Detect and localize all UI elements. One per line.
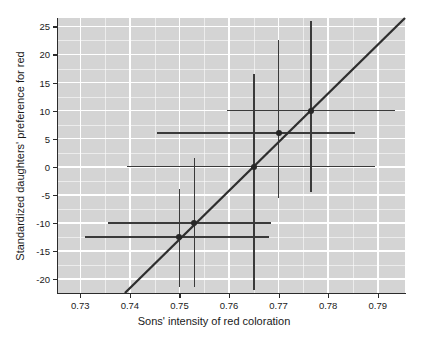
data-point bbox=[276, 130, 282, 136]
y-tick-label: -20 bbox=[22, 273, 50, 284]
x-tick-label: 0.76 bbox=[220, 300, 239, 311]
y-tick-label: 5 bbox=[22, 133, 50, 144]
y-tick-label: -5 bbox=[22, 189, 50, 200]
y-tick-mark bbox=[53, 279, 57, 280]
x-axis-title: Sons' intensity of red coloration bbox=[0, 315, 428, 327]
data-point bbox=[191, 220, 197, 226]
y-tick-mark bbox=[53, 83, 57, 84]
x-tick-mark bbox=[179, 294, 180, 298]
x-tick-label: 0.79 bbox=[368, 300, 387, 311]
y-tick-label: 20 bbox=[22, 49, 50, 60]
x-tick-mark bbox=[229, 294, 230, 298]
x-tick-label: 0.75 bbox=[170, 300, 189, 311]
x-tick-label: 0.73 bbox=[71, 300, 90, 311]
x-tick-mark bbox=[80, 294, 81, 298]
y-tick-mark bbox=[53, 223, 57, 224]
x-tick-mark bbox=[279, 294, 280, 298]
y-tick-label: -15 bbox=[22, 245, 50, 256]
y-tick-label: 0 bbox=[22, 161, 50, 172]
fit-line-segment bbox=[125, 18, 405, 293]
y-tick-mark bbox=[53, 251, 57, 252]
x-tick-label: 0.74 bbox=[121, 300, 140, 311]
x-tick-label: 0.77 bbox=[269, 300, 288, 311]
y-tick-label: 25 bbox=[22, 21, 50, 32]
x-axis-line bbox=[57, 293, 406, 294]
y-tick-mark bbox=[53, 195, 57, 196]
y-tick-label: 10 bbox=[22, 105, 50, 116]
data-point bbox=[176, 234, 182, 240]
x-tick-label: 0.78 bbox=[319, 300, 338, 311]
y-tick-label: 15 bbox=[22, 77, 50, 88]
x-tick-mark bbox=[130, 294, 131, 298]
y-tick-label: -10 bbox=[22, 217, 50, 228]
data-point bbox=[251, 164, 257, 170]
y-tick-mark bbox=[53, 111, 57, 112]
y-tick-mark bbox=[53, 167, 57, 168]
x-tick-mark bbox=[328, 294, 329, 298]
x-tick-mark bbox=[378, 294, 379, 298]
y-tick-mark bbox=[53, 139, 57, 140]
y-axis-title: Standardized daughters' preference for r… bbox=[14, 51, 26, 260]
y-axis-line bbox=[57, 18, 58, 294]
regression-line bbox=[0, 0, 428, 341]
y-tick-mark bbox=[53, 26, 57, 27]
scatter-plot-figure: 0.730.740.750.760.770.780.79 2520151050-… bbox=[0, 0, 428, 341]
data-point bbox=[308, 108, 314, 114]
y-tick-mark bbox=[53, 54, 57, 55]
